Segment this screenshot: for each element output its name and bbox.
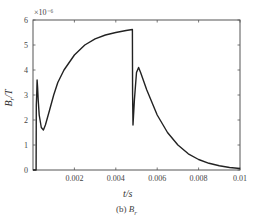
figure-caption: (b) Br: [0, 204, 253, 217]
x-tick-label: 0.004: [107, 174, 125, 183]
y-tick-label: 6: [24, 16, 28, 25]
y-tick-label: 0: [24, 166, 28, 175]
y-multiplier-label: ×10⁻⁶: [34, 8, 54, 17]
chart: 01234560.0020.0040.0060.0080.01 ×10⁻⁶ t/…: [0, 0, 253, 217]
y-tick-label: 4: [24, 66, 28, 75]
x-tick-label: 0.006: [148, 174, 166, 183]
svg-text:Br/T: Br/T: [3, 88, 16, 107]
series-line-br: [33, 30, 240, 171]
x-axis-label: t/s: [123, 188, 133, 199]
axis-ticks: 01234560.0020.0040.0060.0080.01: [24, 16, 247, 183]
x-tick-label: 0.008: [190, 174, 208, 183]
x-tick-label: 0.01: [233, 174, 247, 183]
y-tick-label: 3: [24, 91, 28, 100]
y-tick-label: 5: [24, 41, 28, 50]
plot-frame: [33, 20, 240, 170]
data-series: [33, 30, 240, 171]
caption-prefix: (b): [116, 204, 127, 214]
caption-subscript: r: [134, 209, 137, 217]
y-axis-label: Br/T: [3, 88, 16, 107]
x-tick-label: 0.002: [65, 174, 83, 183]
y-tick-label: 2: [24, 116, 28, 125]
y-tick-label: 1: [24, 141, 28, 150]
